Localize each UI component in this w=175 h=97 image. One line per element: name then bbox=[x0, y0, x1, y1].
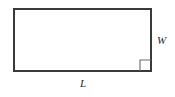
width-label: W bbox=[157, 35, 166, 46]
length-label: L bbox=[0, 78, 166, 89]
rectangle-figure: L W bbox=[0, 0, 175, 97]
rectangle-outline bbox=[14, 9, 151, 71]
